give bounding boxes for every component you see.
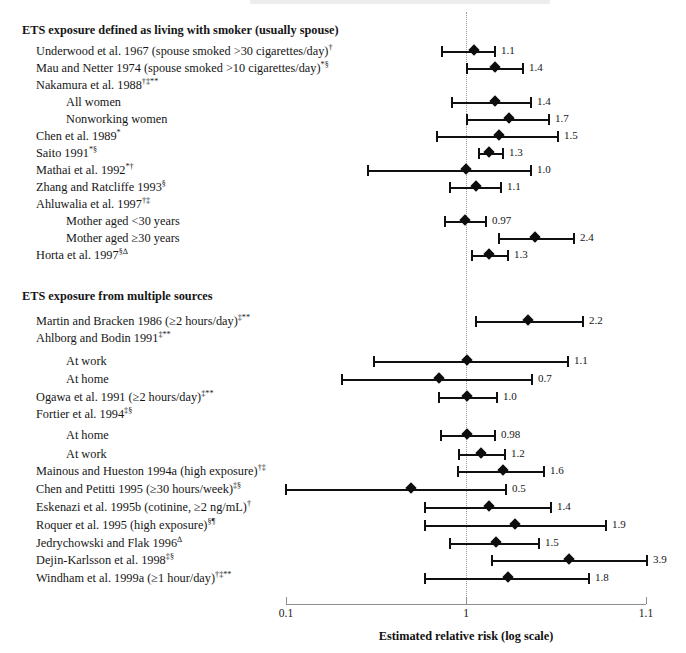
- study-row: Chen et al. 1989*: [0, 128, 686, 145]
- group-heading: ETS exposure defined as living with smok…: [22, 22, 339, 39]
- study-row: Zhang and Ratcliffe 1993§: [0, 179, 686, 196]
- study-label: Windham et al. 1999a (≥1 hour/day)†‡**: [36, 570, 231, 587]
- study-row: At home: [0, 371, 686, 388]
- study-row: Nakamura et al. 1988†‡**: [0, 77, 686, 94]
- study-label: Nakamura et al. 1988†‡**: [36, 77, 158, 94]
- study-label: Martin and Bracken 1986 (≥2 hours/day)‡*…: [36, 313, 250, 330]
- study-row: Ahluwalia et al. 1997†‡: [0, 196, 686, 213]
- study-row: Underwood et al. 1967 (spouse smoked >30…: [0, 43, 686, 60]
- study-label: Eskenazi et al. 1995b (cotinine, ≥2 ng/m…: [36, 499, 251, 516]
- footnote-marker: *†: [125, 162, 133, 171]
- study-label: Ahlborg and Bodin 1991‡**: [36, 330, 171, 347]
- study-label: Underwood et al. 1967 (spouse smoked >30…: [36, 43, 333, 60]
- study-label: Jedrychowski and Flak 1996∆: [36, 535, 182, 552]
- footnote-marker: †‡**: [215, 570, 231, 579]
- study-row: Mau and Netter 1974 (spouse smoked >10 c…: [0, 60, 686, 77]
- study-row: Mother aged <30 years: [0, 213, 686, 230]
- forest-plot-figure: ETS exposure defined as living with smok…: [0, 0, 686, 653]
- study-row: Martin and Bracken 1986 (≥2 hours/day)‡*…: [0, 313, 686, 330]
- study-label: Chen and Petitti 1995 (≥30 hours/week)‡§: [36, 481, 241, 498]
- study-row: All women: [0, 94, 686, 111]
- footnote-marker: §¶: [207, 517, 215, 526]
- study-label: Ogawa et al. 1991 (≥2 hours/day)‡**: [36, 389, 213, 406]
- axis-tick-label: 1: [463, 607, 469, 619]
- study-label: Zhang and Ratcliffe 1993§: [36, 179, 166, 196]
- study-label: At work: [66, 446, 107, 463]
- axis-tick-label: 0.1: [279, 607, 293, 619]
- footnote-marker: ‡**: [158, 330, 170, 339]
- study-label: Saito 1991*§: [36, 145, 97, 162]
- study-row: Windham et al. 1999a (≥1 hour/day)†‡**: [0, 570, 686, 587]
- x-axis-line: [286, 604, 646, 605]
- axis-tick-mark: [286, 597, 287, 604]
- scan-artifact: [250, 0, 550, 4]
- footnote-marker: ‡§: [233, 481, 241, 490]
- study-label: At home: [66, 371, 109, 388]
- axis-tick-label: 1.1: [639, 607, 653, 619]
- footnote-marker: ‡§: [166, 552, 174, 561]
- footnote-marker: †‡**: [142, 77, 158, 86]
- footnote-marker: †‡: [258, 463, 266, 472]
- study-row: Ogawa et al. 1991 (≥2 hours/day)‡**: [0, 389, 686, 406]
- footnote-marker: †: [247, 499, 251, 508]
- study-row: Roquer et al. 1995 (high exposure)§¶: [0, 517, 686, 534]
- study-label: At work: [66, 353, 107, 370]
- footnote-marker: ‡**: [238, 313, 250, 322]
- study-label: Mainous and Hueston 1994a (high exposure…: [36, 463, 266, 480]
- footnote-marker: ‡§: [124, 406, 132, 415]
- x-axis-title: Estimated relative risk (log scale): [379, 629, 554, 644]
- study-row: Mother aged ≥30 years: [0, 230, 686, 247]
- footnote-marker: *§: [321, 60, 329, 69]
- group-heading-row: ETS exposure from multiple sources: [0, 288, 686, 305]
- footnote-marker: *§: [89, 145, 97, 154]
- study-row: Nonworking women: [0, 111, 686, 128]
- footnote-marker: ‡**: [201, 389, 213, 398]
- study-row: Horta et al. 1997§∆: [0, 247, 686, 264]
- study-row: At work: [0, 353, 686, 370]
- study-label: Fortier et al. 1994‡§: [36, 406, 132, 423]
- study-row: Fortier et al. 1994‡§: [0, 406, 686, 423]
- group-heading-row: ETS exposure defined as living with smok…: [0, 22, 686, 39]
- study-label: Dejin-Karlsson et al. 1998‡§: [36, 552, 174, 569]
- study-row: Mainous and Hueston 1994a (high exposure…: [0, 463, 686, 480]
- study-row: Saito 1991*§: [0, 145, 686, 162]
- study-label: Ahluwalia et al. 1997†‡: [36, 196, 150, 213]
- study-row: Ahlborg and Bodin 1991‡**: [0, 330, 686, 347]
- study-row: At home: [0, 427, 686, 444]
- study-row: At work: [0, 446, 686, 463]
- study-row: Mathai et al. 1992*†: [0, 162, 686, 179]
- study-label: Chen et al. 1989*: [36, 128, 121, 145]
- study-label: Mau and Netter 1974 (spouse smoked >10 c…: [36, 60, 329, 77]
- footnote-marker: †: [328, 43, 332, 52]
- footnote-marker: ∆: [177, 535, 182, 544]
- study-label: Horta et al. 1997§∆: [36, 247, 128, 264]
- study-label: Roquer et al. 1995 (high exposure)§¶: [36, 517, 215, 534]
- footnote-marker: §∆: [119, 247, 128, 256]
- group-heading: ETS exposure from multiple sources: [22, 288, 213, 305]
- study-label: Nonworking women: [66, 111, 167, 128]
- study-row: Jedrychowski and Flak 1996∆: [0, 535, 686, 552]
- study-row: Dejin-Karlsson et al. 1998‡§: [0, 552, 686, 569]
- footnote-marker: *: [117, 128, 121, 137]
- study-label: Mother aged <30 years: [66, 213, 180, 230]
- study-label: Mathai et al. 1992*†: [36, 162, 134, 179]
- study-label: All women: [66, 94, 121, 111]
- study-label: Mother aged ≥30 years: [66, 230, 180, 247]
- axis-tick-mark: [466, 597, 467, 604]
- axis-tick-mark: [646, 597, 647, 604]
- study-row: Eskenazi et al. 1995b (cotinine, ≥2 ng/m…: [0, 499, 686, 516]
- study-label: At home: [66, 427, 109, 444]
- footnote-marker: §: [162, 179, 166, 188]
- study-row: Chen and Petitti 1995 (≥30 hours/week)‡§: [0, 481, 686, 498]
- footnote-marker: †‡: [142, 196, 150, 205]
